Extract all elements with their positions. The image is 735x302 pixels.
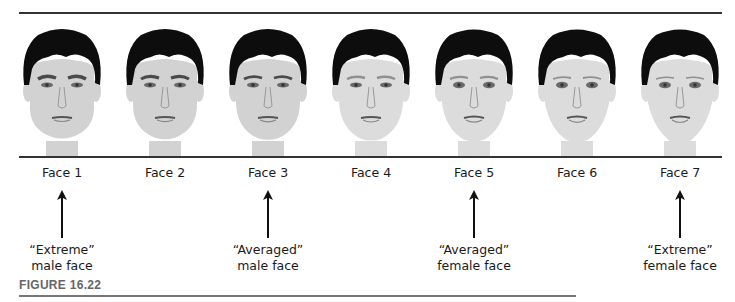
- caption-line-1: “Averaged”: [208, 242, 328, 258]
- bottom-rule: [19, 156, 722, 158]
- faces-row: [0, 14, 735, 156]
- caption-line-2: female face: [620, 258, 735, 274]
- face-image-7: [634, 21, 726, 156]
- face-label-4: Face 4: [326, 165, 416, 180]
- face-image-2: [119, 21, 211, 156]
- face-label-2: Face 2: [120, 165, 210, 180]
- face-label-3: Face 3: [223, 165, 313, 180]
- annotation-caption: “Averaged”male face: [208, 242, 328, 274]
- face-label-7: Face 7: [635, 165, 725, 180]
- caption-line-2: male face: [2, 258, 122, 274]
- caption-line-2: male face: [208, 258, 328, 274]
- face-image-3: [222, 21, 314, 156]
- caption-line-1: “Extreme”: [2, 242, 122, 258]
- arrow-up-icon: [57, 190, 67, 238]
- face-label-1: Face 1: [17, 165, 107, 180]
- caption-line-2: female face: [414, 258, 534, 274]
- annotation-caption: “Averaged”female face: [414, 242, 534, 274]
- caption-line-1: “Averaged”: [414, 242, 534, 258]
- face-image-5: [428, 21, 520, 156]
- figure-label-rule: [19, 295, 576, 297]
- arrow-up-icon: [675, 190, 685, 238]
- annotation-caption: “Extreme”male face: [2, 242, 122, 274]
- arrow-up-icon: [469, 190, 479, 238]
- annotation-caption: “Extreme”female face: [620, 242, 735, 274]
- face-label-6: Face 6: [532, 165, 622, 180]
- face-image-1: [16, 21, 108, 156]
- caption-line-1: “Extreme”: [620, 242, 735, 258]
- figure-label: FIGURE 16.22: [19, 278, 101, 292]
- face-label-5: Face 5: [429, 165, 519, 180]
- arrow-up-icon: [263, 190, 273, 238]
- face-image-4: [325, 21, 417, 156]
- face-image-6: [531, 21, 623, 156]
